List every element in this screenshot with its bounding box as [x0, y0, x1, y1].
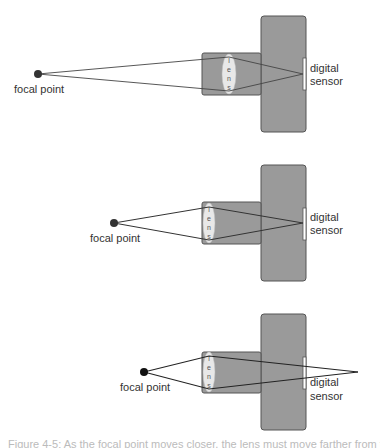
svg-text:e: e	[207, 364, 211, 371]
sensor-label-line1: digital	[310, 211, 339, 223]
digital-sensor	[303, 208, 306, 240]
focal-point-label: focal point	[120, 381, 170, 393]
focal-point-dot	[110, 219, 118, 227]
svg-text:n: n	[207, 373, 211, 380]
digital-sensor	[303, 357, 306, 389]
svg-text:n: n	[207, 224, 211, 231]
digital-sensor	[303, 58, 306, 90]
panel-1: l e n s focal point digital sensor	[14, 16, 343, 132]
sensor-label-line1: digital	[310, 376, 339, 388]
svg-text:s: s	[227, 84, 231, 91]
focal-point-dot	[140, 368, 148, 376]
svg-text:n: n	[227, 75, 231, 82]
sensor-label-line2: sensor	[310, 75, 343, 87]
svg-text:e: e	[227, 66, 231, 73]
svg-text:s: s	[207, 233, 211, 240]
camera-body	[261, 165, 306, 281]
camera-body	[261, 16, 306, 132]
sensor-label-line2: sensor	[310, 390, 343, 402]
focus-diagram: l e n s focal point digital sensor l e n…	[0, 0, 380, 448]
panel-3: l e n s focal point digital sensor	[120, 314, 358, 430]
svg-text:e: e	[207, 215, 211, 222]
camera-body	[261, 314, 306, 430]
focal-point-dot	[34, 70, 42, 78]
figure-caption: Figure 4-5: As the focal point moves clo…	[8, 438, 380, 448]
sensor-label-line1: digital	[310, 62, 339, 74]
focal-point-label: focal point	[14, 83, 64, 95]
focal-point-label: focal point	[90, 232, 140, 244]
sensor-label-line2: sensor	[310, 224, 343, 236]
panel-2: l e n s focal point digital sensor	[90, 165, 343, 281]
svg-text:s: s	[207, 382, 211, 389]
